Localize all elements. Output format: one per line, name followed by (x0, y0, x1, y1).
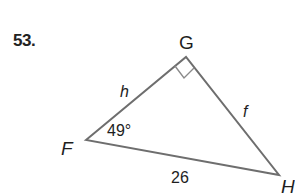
angle-label-f: 49° (107, 123, 131, 139)
triangle-fgh (86, 57, 279, 175)
vertex-label-g: G (179, 33, 194, 52)
side-label-h: h (120, 84, 129, 100)
figure-canvas: 53. G F H h f 26 49° (0, 0, 295, 194)
vertex-label-f: F (61, 139, 73, 158)
problem-number: 53. (13, 32, 35, 49)
right-angle-marker (175, 66, 194, 78)
side-label-f: f (243, 104, 247, 120)
vertex-label-h: H (281, 177, 295, 194)
side-label-26: 26 (171, 170, 189, 186)
triangle-figure (0, 0, 295, 194)
